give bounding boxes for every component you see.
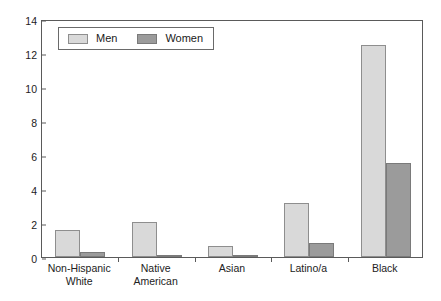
category-label-line: Latino/a xyxy=(270,262,346,275)
y-axis-tick-label: 10 xyxy=(25,84,37,95)
category-label-line: Native xyxy=(117,262,193,275)
legend-label-women: Women xyxy=(165,33,203,44)
plot-area: 02468101214 xyxy=(41,20,423,258)
bar-women xyxy=(157,255,182,257)
x-axis-category-label: Asian xyxy=(194,262,270,275)
x-axis-category-label: NativeAmerican xyxy=(117,262,193,287)
bar-women xyxy=(233,255,258,257)
category-label-line: Non-Hispanic xyxy=(41,262,117,275)
category-label-line: White xyxy=(41,275,117,288)
y-axis-tick-label: 14 xyxy=(25,16,37,27)
y-axis-tick-label: 6 xyxy=(31,152,37,163)
bar-group xyxy=(271,21,347,257)
legend-swatch-women xyxy=(137,34,157,44)
category-label-line: American xyxy=(117,275,193,288)
y-axis-tick-label: 0 xyxy=(31,254,37,265)
bar-group xyxy=(195,21,271,257)
legend-item-men: Men xyxy=(68,33,117,44)
y-axis-tick-label: 12 xyxy=(25,50,37,61)
legend-swatch-men xyxy=(68,34,88,44)
bar-women xyxy=(386,163,411,257)
category-label-line: Black xyxy=(347,262,423,275)
x-axis-category-label: Black xyxy=(347,262,423,275)
x-axis-category-label: Non-HispanicWhite xyxy=(41,262,117,287)
x-axis-category-label: Latino/a xyxy=(270,262,346,275)
bar-chart: 02468101214 Non-HispanicWhiteNativeAmeri… xyxy=(0,0,441,301)
bar-men xyxy=(361,45,386,258)
bar-men xyxy=(208,246,233,257)
legend-item-women: Women xyxy=(137,33,203,44)
legend: Men Women xyxy=(58,27,214,50)
bar-men xyxy=(284,203,309,257)
y-axis-tick-label: 8 xyxy=(31,118,37,129)
bar-men xyxy=(55,230,80,257)
category-label-line: Asian xyxy=(194,262,270,275)
bar-group xyxy=(42,21,118,257)
legend-label-men: Men xyxy=(96,33,117,44)
y-axis-tick-mark xyxy=(42,259,46,260)
y-axis-tick-label: 2 xyxy=(31,220,37,231)
bar-women xyxy=(309,243,334,257)
bar-women xyxy=(80,252,105,257)
bar-group xyxy=(348,21,424,257)
bar-men xyxy=(132,222,157,257)
y-axis-tick-label: 4 xyxy=(31,186,37,197)
bar-group xyxy=(118,21,194,257)
